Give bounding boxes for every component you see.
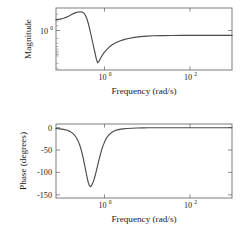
phase-ylabel-150: -150 bbox=[37, 191, 52, 200]
phase-xtick-label-1: 10 0 bbox=[99, 199, 112, 210]
magnitude-xtick1-exponent: 0 bbox=[109, 71, 112, 77]
magnitude-axes-frame bbox=[56, 8, 232, 70]
phase-ylabel-0: 0 bbox=[48, 124, 52, 133]
magnitude-x-ticks bbox=[105, 8, 191, 70]
phase-xtick2-mantissa: 10 bbox=[184, 201, 192, 210]
magnitude-ytick-label: 10 0 bbox=[40, 25, 53, 36]
magnitude-xaxis-label: Frequency (rad/s) bbox=[111, 86, 176, 96]
magnitude-xtick2-exponent: 2 bbox=[194, 71, 197, 77]
magnitude-ytick-exponent: 0 bbox=[50, 25, 53, 31]
plot-canvas: 10 0 10 0 10 2 Frequency (rad/s) Magnitu… bbox=[0, 0, 248, 237]
phase-xtick1-exponent: 0 bbox=[109, 199, 112, 205]
magnitude-plot: 10 0 10 0 10 2 Frequency (rad/s) Magnitu… bbox=[23, 8, 232, 96]
bode-plot-figure: 10 0 10 0 10 2 Frequency (rad/s) Magnitu… bbox=[0, 0, 248, 237]
phase-xtick2-exponent: 2 bbox=[194, 199, 197, 205]
phase-x-ticks bbox=[105, 124, 191, 198]
magnitude-xtick2-mantissa: 10 bbox=[184, 73, 192, 82]
phase-xtick1-mantissa: 10 bbox=[99, 201, 107, 210]
magnitude-xtick-label-2: 10 2 bbox=[184, 71, 197, 82]
phase-curve bbox=[56, 128, 232, 187]
magnitude-xtick-label-1: 10 0 bbox=[99, 71, 112, 82]
phase-y-ticks bbox=[56, 128, 232, 195]
phase-xtick-label-2: 10 2 bbox=[184, 199, 197, 210]
phase-axes-frame bbox=[56, 124, 232, 198]
magnitude-curve bbox=[56, 12, 232, 63]
phase-yaxis-label: Phase (degrees) bbox=[18, 132, 28, 190]
phase-ylabel-100: -100 bbox=[37, 168, 52, 177]
phase-xaxis-label: Frequency (rad/s) bbox=[111, 214, 176, 224]
phase-ylabel-50: -50 bbox=[41, 146, 52, 155]
magnitude-yaxis-label: Magnitude bbox=[23, 19, 33, 59]
magnitude-xtick1-mantissa: 10 bbox=[99, 73, 107, 82]
phase-plot: 0 -50 -100 -150 10 0 10 2 Frequency (rad… bbox=[18, 124, 232, 224]
magnitude-ytick-mantissa: 10 bbox=[40, 27, 48, 36]
